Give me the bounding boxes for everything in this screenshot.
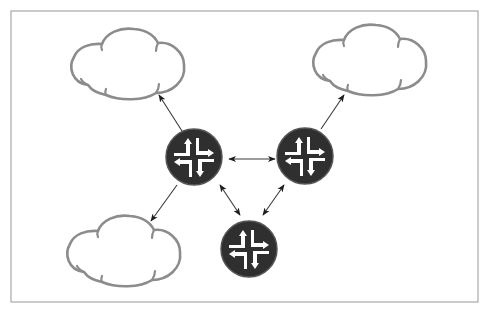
router-left bbox=[166, 129, 222, 185]
router-right bbox=[277, 128, 333, 184]
network-diagram bbox=[0, 0, 487, 311]
router-bottom bbox=[221, 221, 277, 277]
router-icon bbox=[166, 129, 222, 185]
router-icon bbox=[277, 128, 333, 184]
router-icon bbox=[221, 221, 277, 277]
